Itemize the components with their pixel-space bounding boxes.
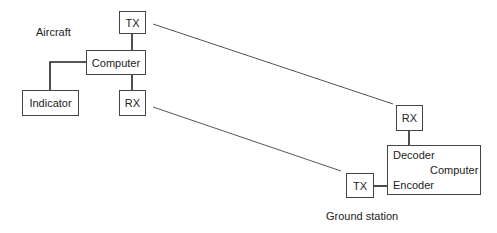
radio-link-uplink	[153, 24, 393, 104]
radio-link-downlink	[153, 107, 341, 171]
encoder-label: Encoder	[393, 179, 434, 191]
indicator-box: Indicator	[22, 90, 79, 116]
ground-tx-box: TX	[346, 173, 374, 198]
diagram-canvas: Aircraft TX Computer Indicator RX RX Dec…	[0, 0, 497, 233]
ground-computer-box: Decoder Computer Encoder	[387, 145, 481, 195]
link-computer-indicator	[50, 62, 86, 90]
aircraft-rx-box: RX	[119, 90, 146, 116]
aircraft-computer-box: Computer	[86, 50, 146, 75]
aircraft-tx-box: TX	[119, 11, 146, 34]
ground-rx-box: RX	[396, 105, 423, 131]
aircraft-label: Aircraft	[36, 26, 71, 38]
ground-computer-label: Computer	[430, 164, 478, 176]
decoder-label: Decoder	[393, 149, 435, 161]
ground-station-label: Ground station	[326, 210, 398, 222]
